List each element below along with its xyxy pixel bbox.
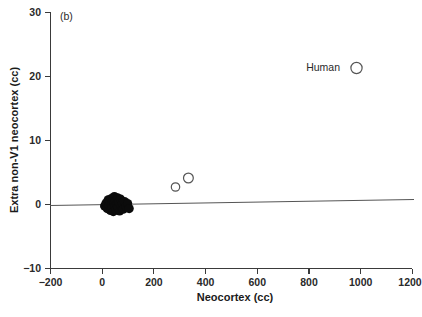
y-tick-label-20: 20 bbox=[29, 70, 41, 82]
series-great-apes bbox=[171, 173, 193, 191]
figure-panel-b: 30 20 10 0 −10 −200 0 200 400 600 800 10… bbox=[0, 0, 422, 317]
x-tick-label-600: 600 bbox=[249, 276, 267, 288]
x-tick-label-1200: 1200 bbox=[398, 276, 422, 288]
data-point-human bbox=[351, 62, 362, 73]
y-tick-label-30: 30 bbox=[29, 6, 41, 18]
x-tick-label-1000: 1000 bbox=[349, 276, 373, 288]
series-non-human-primates bbox=[100, 192, 134, 216]
panel-label: (b) bbox=[60, 10, 73, 22]
x-tick-label-neg200: −200 bbox=[39, 276, 63, 288]
scatter-plot: 30 20 10 0 −10 −200 0 200 400 600 800 10… bbox=[0, 0, 422, 317]
x-tick-label-800: 800 bbox=[300, 276, 318, 288]
x-tick-label-200: 200 bbox=[145, 276, 163, 288]
y-axis-title: Extra non-V1 neocortex (cc) bbox=[8, 67, 20, 213]
y-tick-label-0: 0 bbox=[35, 198, 41, 210]
y-tick-label-neg10: −10 bbox=[23, 262, 41, 274]
y-tick-label-10: 10 bbox=[29, 134, 41, 146]
human-annotation-label: Human bbox=[306, 61, 340, 73]
data-point bbox=[125, 204, 134, 213]
data-point-open bbox=[184, 173, 194, 183]
x-tick-label-0: 0 bbox=[99, 276, 105, 288]
x-tick-label-400: 400 bbox=[197, 276, 215, 288]
y-axis-ticks bbox=[45, 13, 51, 269]
data-point-open bbox=[171, 183, 179, 191]
x-axis-title: Neocortex (cc) bbox=[197, 291, 274, 303]
series-human bbox=[351, 62, 362, 73]
x-axis-ticks bbox=[51, 269, 413, 275]
